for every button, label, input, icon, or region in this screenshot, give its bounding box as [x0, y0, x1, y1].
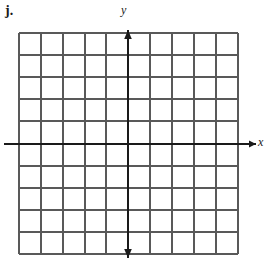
- axes: [4, 30, 256, 258]
- coordinate-grid-figure: j. y x: [0, 0, 272, 266]
- x-axis-arrow-right: [249, 140, 256, 147]
- y-axis-arrow-up: [124, 30, 132, 39]
- coordinate-grid-svg: [0, 0, 272, 266]
